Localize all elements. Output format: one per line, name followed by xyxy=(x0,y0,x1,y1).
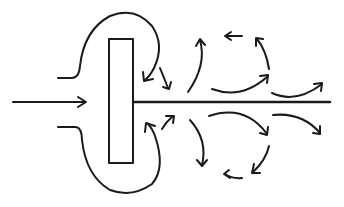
wake-lower-arrow-1 xyxy=(190,120,204,165)
wake-lower-arrow-3 xyxy=(253,146,269,172)
upper-small-arrow-1 xyxy=(160,68,168,88)
lower-small-arrow-1 xyxy=(162,116,173,129)
wake-upper-arrow-3 xyxy=(257,39,269,69)
flow-diagram xyxy=(0,0,344,207)
plate-rectangle xyxy=(109,39,133,163)
wake-upper-arrow-1 xyxy=(188,40,202,92)
wake-upper-arrow-4 xyxy=(212,76,268,92)
inflow-arrow-icon xyxy=(13,97,86,107)
wake-lower-arrow-2 xyxy=(209,113,267,134)
wake-upper-arrow-5 xyxy=(272,84,322,97)
wake-lower-arrowhead-4-icon xyxy=(224,170,230,178)
wake-lower-arrow-5 xyxy=(273,115,320,133)
